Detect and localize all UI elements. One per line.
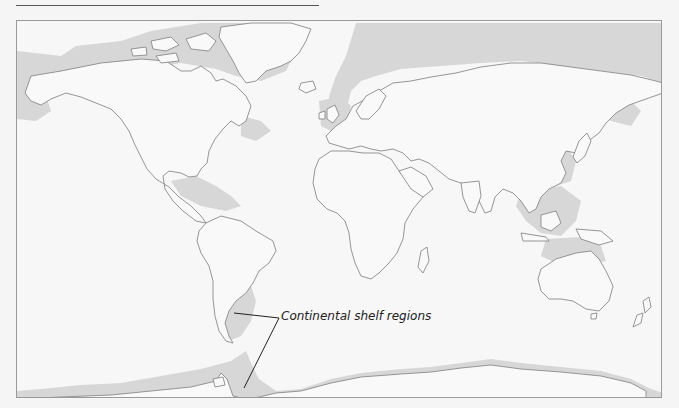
world-map bbox=[16, 20, 662, 398]
top-rule bbox=[16, 5, 319, 6]
map-svg bbox=[17, 21, 662, 398]
continental-shelf-label: Continental shelf regions bbox=[281, 309, 431, 323]
